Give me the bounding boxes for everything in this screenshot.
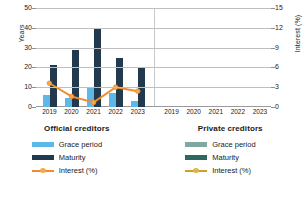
gridline bbox=[36, 48, 271, 49]
tick-mark-left bbox=[32, 8, 36, 9]
y-tick-left: 40 bbox=[6, 24, 32, 32]
tick-mark-left bbox=[32, 67, 36, 68]
legend-official: Official creditors Grace period Maturity… bbox=[0, 124, 154, 196]
y-axis-right-title: Interest (%) bbox=[294, 4, 301, 64]
legend-official-title: Official creditors bbox=[44, 124, 109, 133]
x-tick-label: 2020 bbox=[64, 108, 78, 115]
legend-label-interest-private: Interest (%) bbox=[212, 166, 251, 175]
tick-mark-left bbox=[32, 28, 36, 29]
x-tick-label: 2022 bbox=[108, 108, 122, 115]
gridline bbox=[36, 67, 271, 68]
bar-maturity bbox=[116, 58, 123, 108]
legend-item-grace-official[interactable]: Grace period bbox=[32, 138, 122, 151]
y-tick-right: 12 bbox=[275, 24, 301, 32]
x-tick-label: 2022 bbox=[231, 108, 245, 115]
legend-item-maturity-official[interactable]: Maturity bbox=[32, 151, 122, 164]
tick-mark-right bbox=[271, 107, 275, 108]
legend-private-title: Private creditors bbox=[198, 124, 263, 133]
y-tick-right: 0 bbox=[275, 103, 301, 111]
interest-line-marker-icon bbox=[32, 167, 54, 174]
x-tick-label: 2020 bbox=[186, 108, 200, 115]
legend-label-maturity-official: Maturity bbox=[59, 153, 86, 162]
x-tick-label: 2019 bbox=[164, 108, 178, 115]
tick-mark-right bbox=[271, 48, 275, 49]
bar-layer bbox=[36, 8, 271, 107]
bar-maturity bbox=[72, 50, 79, 107]
maturity-swatch-icon bbox=[32, 155, 54, 160]
tick-mark-right bbox=[271, 8, 275, 9]
bar-grace-period bbox=[109, 93, 116, 107]
legend-item-interest-official[interactable]: Interest (%) bbox=[32, 164, 122, 177]
legend-item-maturity-private[interactable]: Maturity bbox=[185, 151, 275, 164]
y-tick-left: 50 bbox=[6, 4, 32, 12]
tick-mark-left bbox=[32, 87, 36, 88]
plot-area: 5015401230920610300 bbox=[36, 8, 271, 107]
x-axis-labels: 2019202020212022202320192020202120222023 bbox=[36, 108, 271, 120]
y-tick-left: 30 bbox=[6, 44, 32, 52]
y-tick-left: 10 bbox=[6, 83, 32, 91]
tick-mark-right bbox=[271, 87, 275, 88]
chart-figure: Years Interest (%) 5015401230920610300 2… bbox=[0, 0, 307, 197]
legend-label-grace-private: Grace period bbox=[212, 140, 255, 149]
bar-grace-period bbox=[43, 95, 50, 107]
tick-mark-right bbox=[271, 67, 275, 68]
legend-label-maturity-private: Maturity bbox=[212, 153, 239, 162]
bar-grace-period bbox=[131, 101, 138, 107]
x-tick-label: 2021 bbox=[209, 108, 223, 115]
y-tick-left: 0 bbox=[6, 103, 32, 111]
grace-period-private-swatch-icon bbox=[185, 142, 207, 147]
gridline bbox=[36, 28, 271, 29]
legend-container: Official creditors Grace period Maturity… bbox=[0, 124, 307, 196]
tick-mark-right bbox=[271, 28, 275, 29]
legend-label-grace-official: Grace period bbox=[59, 140, 102, 149]
x-tick-label: 2023 bbox=[253, 108, 267, 115]
y-tick-right: 3 bbox=[275, 83, 301, 91]
bar-grace-period bbox=[65, 98, 72, 107]
y-tick-right: 6 bbox=[275, 63, 301, 71]
x-tick-label: 2019 bbox=[42, 108, 56, 115]
y-tick-right: 9 bbox=[275, 44, 301, 52]
bar-grace-period bbox=[87, 87, 94, 107]
legend-item-interest-private[interactable]: Interest (%) bbox=[185, 164, 275, 177]
legend-label-interest-official: Interest (%) bbox=[59, 166, 98, 175]
maturity-private-swatch-icon bbox=[185, 155, 207, 160]
gridline bbox=[36, 8, 271, 9]
legend-item-grace-private[interactable]: Grace period bbox=[185, 138, 275, 151]
legend-private: Private creditors Grace period Maturity … bbox=[154, 124, 308, 196]
x-tick-label: 2023 bbox=[131, 108, 145, 115]
y-tick-right: 15 bbox=[275, 4, 301, 12]
interest-line-private-marker-icon bbox=[185, 167, 207, 174]
gridline bbox=[36, 87, 271, 88]
tick-mark-left bbox=[32, 48, 36, 49]
grace-period-swatch-icon bbox=[32, 142, 54, 147]
x-tick-label: 2021 bbox=[86, 108, 100, 115]
y-tick-left: 20 bbox=[6, 63, 32, 71]
